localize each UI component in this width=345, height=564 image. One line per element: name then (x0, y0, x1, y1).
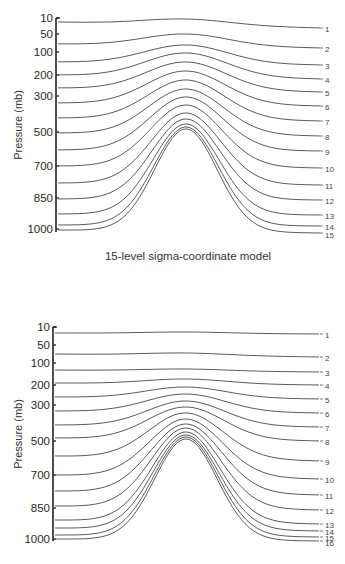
y-tick-label: 10 (40, 12, 53, 24)
y-tick-label: 200 (31, 379, 50, 391)
level-label: 5 (325, 396, 330, 405)
panel-16-level-hybrid: 10501002003005007008501000Pressure (mb)1… (12, 321, 334, 548)
level-label: 15 (325, 231, 334, 240)
y-tick-label: 850 (31, 502, 50, 514)
y-tick-label: 100 (34, 46, 53, 58)
level-label: 9 (325, 148, 330, 157)
level-label: 2 (325, 45, 330, 54)
level-label: 6 (325, 103, 330, 112)
level-label: 12 (325, 197, 334, 206)
y-tick-label: 50 (40, 28, 53, 40)
sigma-level-10 (58, 105, 320, 168)
level-label: 4 (325, 382, 330, 391)
y-tick-label: 300 (31, 399, 50, 411)
y-tick-label: 500 (34, 126, 53, 138)
y-tick-label: 700 (31, 469, 50, 481)
sigma-level-2 (55, 353, 319, 357)
sigma-level-12 (55, 428, 319, 510)
sigma-level-6 (58, 71, 320, 106)
y-tick-label: 100 (31, 357, 50, 369)
y-tick-label: 850 (34, 192, 53, 204)
y-tick-label: 500 (31, 435, 50, 447)
sigma-level-1 (58, 19, 320, 28)
y-axis-label: Pressure (mb) (12, 399, 24, 469)
y-tick-label: 50 (37, 339, 50, 351)
panel-caption: 15-level sigma-coordinate model (105, 250, 271, 262)
level-label: 8 (325, 438, 330, 447)
level-label: 3 (325, 62, 330, 71)
sigma-level-1 (55, 332, 319, 334)
level-label: 1 (325, 25, 330, 34)
sigma-level-4 (55, 379, 319, 385)
y-tick-label: 200 (34, 69, 53, 81)
sigma-level-8 (58, 89, 320, 136)
y-tick-label: 300 (34, 90, 53, 102)
sigma-level-13 (55, 432, 319, 524)
level-label: 12 (325, 507, 334, 516)
level-label: 4 (325, 76, 330, 85)
sigma-level-7 (55, 401, 319, 427)
sigma-level-2 (58, 34, 320, 48)
level-label: 9 (325, 458, 330, 467)
level-label: 3 (325, 369, 330, 378)
sigma-level-13 (58, 124, 320, 215)
y-axis-label: Pressure (mb) (12, 90, 24, 160)
level-label: 6 (325, 410, 330, 419)
level-label: 13 (325, 212, 334, 221)
sigma-level-15 (55, 437, 319, 537)
level-label: 7 (325, 424, 330, 433)
sigma-coordinate-diagram: 10501002003005007008501000Pressure (mb)1… (0, 0, 345, 564)
y-tick-label: 700 (34, 160, 53, 172)
y-tick-label: 1000 (24, 533, 50, 545)
level-label: 11 (325, 182, 334, 191)
level-label: 2 (325, 354, 330, 363)
level-label: 1 (325, 331, 330, 340)
level-label: 11 (325, 492, 334, 501)
y-tick-label: 1000 (27, 223, 53, 235)
level-label: 7 (325, 118, 330, 127)
level-label: 10 (325, 165, 334, 174)
sigma-level-14 (55, 435, 319, 531)
sigma-level-5 (55, 387, 319, 399)
panel-15-level-sigma: 10501002003005007008501000Pressure (mb)1… (12, 12, 334, 240)
level-label: 10 (325, 476, 334, 485)
level-label: 5 (325, 89, 330, 98)
y-tick-label: 10 (37, 321, 50, 333)
sigma-level-14 (58, 127, 320, 226)
level-label: 16 (325, 539, 334, 548)
level-label: 8 (325, 133, 330, 142)
sigma-level-3 (55, 369, 319, 372)
sigma-level-4 (58, 53, 320, 79)
